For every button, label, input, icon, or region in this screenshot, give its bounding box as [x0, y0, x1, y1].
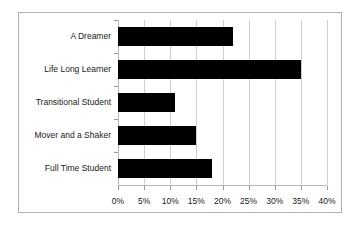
- x-tick-label: 20%: [214, 196, 231, 206]
- category-label: Life Long Learner: [44, 60, 111, 79]
- tick-mark-15%: [196, 186, 197, 190]
- category-tick-mark: [114, 119, 118, 120]
- bar: [118, 159, 212, 178]
- x-tick-label: 25%: [240, 196, 257, 206]
- tick-mark-40%: [327, 186, 328, 190]
- tick-mark-25%: [249, 186, 250, 190]
- bar: [118, 93, 175, 112]
- bar-row: Mover and a Shaker: [118, 119, 327, 152]
- tick-mark-0%: [118, 186, 119, 190]
- plot-area: A DreamerLife Long LearnerTransitional S…: [118, 20, 327, 185]
- tick-mark-35%: [301, 186, 302, 190]
- x-tick-label: 40%: [318, 196, 335, 206]
- x-tick-label: 5%: [138, 196, 150, 206]
- x-tick-label: 0%: [112, 196, 124, 206]
- category-label: Full Time Student: [45, 159, 111, 178]
- bar-row: Full Time Student: [118, 152, 327, 185]
- category-label: Transitional Student: [36, 93, 111, 112]
- x-tick-label: 15%: [188, 196, 205, 206]
- category-label: A Dreamer: [70, 27, 111, 46]
- axis-baseline: [118, 185, 327, 186]
- bar-row: Transitional Student: [118, 86, 327, 119]
- bar-row: A Dreamer: [118, 20, 327, 53]
- bar: [118, 126, 196, 145]
- category-tick-mark: [114, 20, 118, 21]
- bar: [118, 27, 233, 46]
- tick-mark-20%: [223, 186, 224, 190]
- category-tick-mark: [114, 86, 118, 87]
- gridline-40%: [327, 20, 328, 185]
- bar: [118, 60, 301, 79]
- bar-row: Life Long Learner: [118, 53, 327, 86]
- x-tick-label: 35%: [292, 196, 309, 206]
- tick-mark-10%: [170, 186, 171, 190]
- category-label: Mover and a Shaker: [34, 126, 111, 145]
- x-tick-label: 10%: [162, 196, 179, 206]
- tick-mark-5%: [144, 186, 145, 190]
- category-tick-mark: [114, 53, 118, 54]
- x-tick-label: 30%: [266, 196, 283, 206]
- chart-figure: A DreamerLife Long LearnerTransitional S…: [18, 12, 342, 213]
- category-tick-mark: [114, 152, 118, 153]
- tick-mark-30%: [275, 186, 276, 190]
